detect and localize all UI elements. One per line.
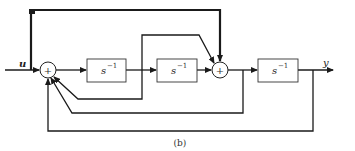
figure-caption: (b) (174, 138, 187, 148)
svg-text:s: s (272, 65, 277, 76)
svg-text:−1: −1 (278, 62, 288, 70)
plus-sign: + (216, 65, 224, 76)
svg-text:−1: −1 (107, 62, 117, 70)
integrator-block-1: s −1 (87, 59, 126, 82)
summing-junction-2: + (212, 62, 228, 78)
svg-text:−1: −1 (177, 62, 187, 70)
integrator-block-3: s −1 (258, 59, 298, 82)
summing-junction-1: + (40, 62, 56, 78)
feedback-wire-sum2-to-sum1 (51, 70, 243, 113)
input-label: u (19, 58, 26, 69)
block-diagram: + + s −1 s −1 s −1 u y (b) (0, 0, 355, 151)
integrator-block-2: s −1 (157, 59, 197, 82)
svg-text:s: s (171, 65, 176, 76)
plus-sign: + (44, 65, 52, 76)
output-label: y (322, 57, 329, 68)
svg-text:s: s (101, 65, 106, 76)
